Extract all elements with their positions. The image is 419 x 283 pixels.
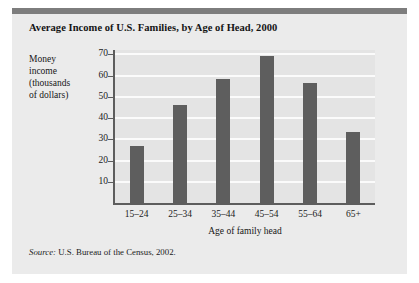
y-axis-tick-mark bbox=[108, 54, 113, 55]
source-text: U.S. Bureau of the Census, 2002. bbox=[56, 247, 176, 257]
gridline bbox=[115, 53, 375, 55]
plot-area bbox=[115, 50, 375, 203]
gridline bbox=[115, 96, 375, 98]
x-axis-line bbox=[113, 203, 375, 205]
x-axis-title: Age of family head bbox=[115, 226, 375, 236]
y-axis-tick-label: 10 bbox=[86, 177, 108, 187]
y-axis-title-line-4: of dollars) bbox=[29, 89, 89, 101]
y-axis-tick-mark bbox=[108, 118, 113, 119]
y-axis-tick-label: 20 bbox=[86, 156, 108, 166]
bar bbox=[130, 146, 144, 203]
y-axis-title-line-1: Money bbox=[29, 53, 89, 65]
gridline bbox=[115, 138, 375, 140]
y-axis-title-line-2: income bbox=[29, 65, 89, 77]
bar bbox=[303, 83, 317, 203]
y-axis-tick-mark bbox=[108, 161, 113, 162]
y-axis-tick-labels: 70605040302010 bbox=[82, 8, 108, 283]
y-axis-title: Money income (thousands of dollars) bbox=[29, 53, 89, 102]
gridline bbox=[115, 181, 375, 183]
figure-panel: Average Income of U.S. Families, by Age … bbox=[12, 8, 407, 274]
x-axis-tick-label: 25–34 bbox=[158, 210, 202, 220]
bar bbox=[173, 105, 187, 203]
y-axis-tick-mark bbox=[108, 76, 113, 77]
x-axis-tick-labels: 15–2425–3435–4445–5455–6465+ bbox=[115, 210, 375, 224]
x-axis-tick-label: 35–44 bbox=[201, 210, 245, 220]
x-axis-tick-label: 55–64 bbox=[288, 210, 332, 220]
y-axis-tick-mark bbox=[108, 139, 113, 140]
x-axis-tick-label: 15–24 bbox=[115, 210, 159, 220]
y-axis-tick-mark bbox=[108, 97, 113, 98]
x-axis-tick-label: 45–54 bbox=[245, 210, 289, 220]
gridline bbox=[115, 117, 375, 119]
gridline bbox=[115, 75, 375, 77]
bar bbox=[216, 79, 230, 203]
y-axis-line bbox=[113, 50, 115, 205]
bar bbox=[260, 56, 274, 203]
y-axis-tick-label: 70 bbox=[86, 49, 108, 59]
source-label: Source: bbox=[29, 247, 56, 257]
y-axis-tick-label: 50 bbox=[86, 92, 108, 102]
y-axis-tick-label: 30 bbox=[86, 134, 108, 144]
bar bbox=[346, 132, 360, 203]
chart-title: Average Income of U.S. Families, by Age … bbox=[29, 22, 277, 33]
gridline bbox=[115, 160, 375, 162]
y-axis-tick-label: 60 bbox=[86, 71, 108, 81]
y-axis-title-line-3: (thousands bbox=[29, 77, 89, 89]
x-axis-tick-label: 65+ bbox=[331, 210, 375, 220]
source-note: Source: U.S. Bureau of the Census, 2002. bbox=[29, 247, 176, 257]
y-axis-tick-label: 40 bbox=[86, 113, 108, 123]
y-axis-tick-mark bbox=[108, 182, 113, 183]
panel-accent-bar bbox=[12, 8, 407, 14]
